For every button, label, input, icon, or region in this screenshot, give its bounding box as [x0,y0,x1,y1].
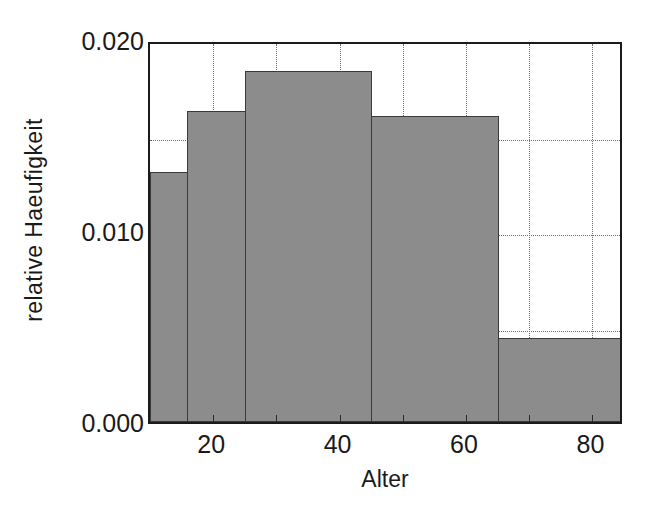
x-tick-label: 20 [171,432,251,457]
y-tick-label: 0.020 [52,29,144,54]
x-tick-mark [276,415,277,422]
x-axis-title: Alter [148,466,622,493]
x-tick-mark [403,415,404,422]
x-tick-label: 40 [298,432,378,457]
y-axis-tick-labels: 0.0000.0100.020 [48,0,144,505]
y-tick-label: 0.000 [52,411,144,436]
x-tick-label: 80 [550,432,630,457]
histogram-bar [187,111,246,422]
histogram-figure: relative Haeufigkeit 0.0000.0100.020 Alt… [0,0,656,505]
plot-area [148,42,622,424]
y-tick-label: 0.010 [52,220,144,245]
x-tick-mark [592,415,593,422]
x-tick-label: 60 [424,432,504,457]
histogram-bar [498,338,622,422]
x-tick-mark [340,415,341,422]
x-tick-mark [213,415,214,422]
histogram-bar [150,172,188,422]
x-tick-mark [529,415,530,422]
histogram-bar [245,71,372,422]
x-tick-mark [466,415,467,422]
histogram-bar [371,116,498,422]
